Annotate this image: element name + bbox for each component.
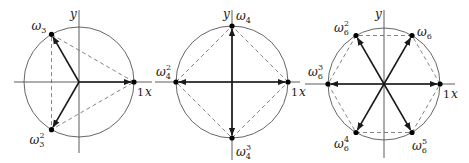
fourth-roots-diagram: ω4ω42ω43y1x xyxy=(155,7,306,161)
sixth-roots-diagram: ω6ω62ω63ω64ω65y1x xyxy=(305,7,458,158)
unit-label: 1 xyxy=(137,86,144,99)
root-point xyxy=(325,81,330,86)
y-axis-label: y xyxy=(374,7,382,21)
root-label: ω4 xyxy=(236,9,251,25)
root-label: ω63 xyxy=(308,63,323,81)
root-point xyxy=(131,79,136,84)
root-point xyxy=(353,130,358,135)
unit-label: 1 xyxy=(443,88,450,101)
roots-of-unity-figure: ω3ω32y1x ω4ω42ω43y1x ω6ω62ω63ω64ω65y1x xyxy=(0,0,469,163)
root-label: ω32 xyxy=(30,131,45,149)
root-label: ω62 xyxy=(334,19,349,37)
x-axis-label: x xyxy=(145,85,152,99)
root-vector xyxy=(384,84,411,130)
root-point xyxy=(229,23,234,28)
root-point xyxy=(353,33,358,38)
root-point xyxy=(49,32,54,37)
x-axis-label: x xyxy=(299,85,306,99)
root-point xyxy=(409,130,414,135)
root-label: ω64 xyxy=(334,135,349,153)
root-vector xyxy=(53,82,79,127)
root-vector xyxy=(53,37,79,82)
root-label: ω65 xyxy=(412,137,427,155)
root-label: ω43 xyxy=(236,143,251,161)
root-point xyxy=(285,79,290,84)
root-point xyxy=(437,81,442,86)
root-vector xyxy=(358,38,385,84)
y-axis-label: y xyxy=(69,7,77,21)
cube-roots-diagram: ω3ω32y1x xyxy=(14,7,152,153)
x-axis-label: x xyxy=(451,87,458,101)
root-vector xyxy=(358,84,385,130)
root-point xyxy=(49,127,54,132)
root-point xyxy=(229,135,234,140)
root-label: ω6 xyxy=(417,25,432,41)
root-label: ω3 xyxy=(32,19,47,35)
unit-label: 1 xyxy=(291,86,298,99)
diagram-canvas: ω3ω32y1x ω4ω42ω43y1x ω6ω62ω63ω64ω65y1x xyxy=(0,0,469,163)
root-point xyxy=(409,33,414,38)
y-axis-label: y xyxy=(222,7,230,21)
root-label: ω42 xyxy=(156,63,171,81)
root-vector xyxy=(384,38,411,84)
root-point xyxy=(173,79,178,84)
